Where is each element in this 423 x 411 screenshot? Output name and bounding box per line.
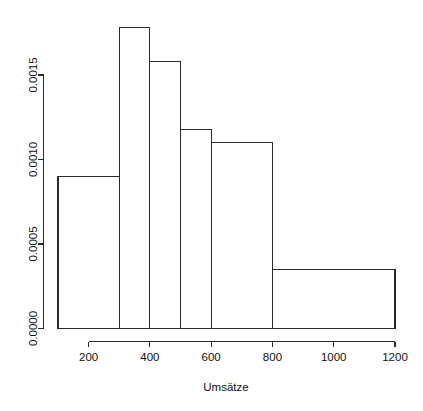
histogram-bar [272, 269, 395, 328]
y-axis-tick-label: 0.0005 [27, 226, 39, 261]
histogram-bar [150, 61, 181, 328]
y-axis-tick-label: 0.0010 [27, 142, 39, 177]
histogram-bar [119, 28, 150, 329]
histogram-bar [58, 176, 119, 328]
x-axis-tick-label: 400 [140, 351, 159, 363]
x-axis-tick-label: 800 [263, 351, 282, 363]
x-axis-tick-label: 200 [79, 351, 98, 363]
x-axis: 20040060080010001200 [79, 342, 408, 363]
y-axis: 0.00000.00050.00100.0015 [27, 57, 44, 346]
x-axis-tick-label: 1200 [382, 351, 408, 363]
x-axis-title: Umsätze [203, 381, 248, 393]
y-axis-tick-label: 0.0000 [27, 311, 39, 346]
x-axis-tick-label: 600 [202, 351, 221, 363]
x-axis-tick-label: 1000 [321, 351, 347, 363]
histogram-bar [181, 129, 212, 328]
histogram-canvas: 0.00000.00050.00100.0015 200400600800100… [0, 0, 423, 411]
histogram-bar [211, 143, 272, 329]
histogram-plot: 0.00000.00050.00100.0015 200400600800100… [0, 0, 423, 411]
y-axis-tick-label: 0.0015 [27, 57, 39, 92]
bars-group [58, 28, 395, 329]
